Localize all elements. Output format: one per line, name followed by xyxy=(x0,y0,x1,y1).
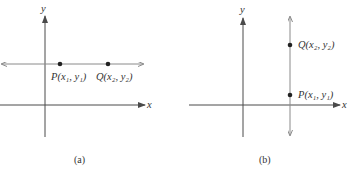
point-p xyxy=(58,62,63,67)
point-p-label: P(x₁, y₁) xyxy=(297,89,334,101)
point-p-label: P(x₁, y₁) xyxy=(50,71,87,83)
x-axis-label: x xyxy=(341,99,347,110)
point-q xyxy=(106,62,111,67)
point-q-label: Q(x₂, y₂) xyxy=(96,71,133,83)
panel-a: y x P(x₁, y₁) Q(x₂, y₂) (a) xyxy=(0,3,152,166)
point-q xyxy=(288,43,293,48)
x-axis-label: x xyxy=(146,99,152,110)
panel-b: y x Q(x₂, y₂) P(x₁, y₁) (b) xyxy=(189,4,347,166)
caption-a: (a) xyxy=(74,154,85,166)
y-axis-label: y xyxy=(40,3,46,14)
point-q-label: Q(x₂, y₂) xyxy=(298,39,335,51)
caption-b: (b) xyxy=(259,154,271,166)
y-axis-label: y xyxy=(239,4,245,15)
diagram-canvas: y x P(x₁, y₁) Q(x₂, y₂) (a) y x Q(x₂, y₂… xyxy=(0,0,350,173)
point-p xyxy=(288,93,293,98)
